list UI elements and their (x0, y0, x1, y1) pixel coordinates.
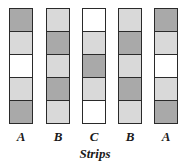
strip-cell (47, 78, 69, 101)
strip-cell (83, 78, 105, 101)
strip-cell (83, 9, 105, 32)
strip-cell (155, 9, 177, 32)
strip-cell (47, 101, 69, 123)
strip-label: B (118, 129, 142, 145)
strip-cell (47, 32, 69, 55)
strip-cell (10, 78, 32, 101)
strip-3 (82, 8, 106, 124)
strip-cell (47, 9, 69, 32)
strip-5 (154, 8, 178, 124)
strip-cell (119, 55, 141, 78)
strip-label: B (46, 129, 70, 145)
strip-cell (47, 55, 69, 78)
strip-cell (155, 55, 177, 78)
strip-cell (119, 32, 141, 55)
strip-cell (10, 101, 32, 123)
strip-label: A (154, 129, 178, 145)
strip-cell (119, 101, 141, 123)
strip-label: C (82, 129, 106, 145)
strip-cell (83, 101, 105, 123)
strip-cell (83, 32, 105, 55)
strip-cell (83, 55, 105, 78)
strip-1 (9, 8, 33, 124)
strip-cell (119, 9, 141, 32)
axis-title: Strips (0, 146, 190, 162)
strip-cell (10, 9, 32, 32)
strip-cell (155, 101, 177, 123)
strip-cell (10, 32, 32, 55)
strip-4 (118, 8, 142, 124)
strip-2 (46, 8, 70, 124)
strip-cell (10, 55, 32, 78)
strip-cell (119, 78, 141, 101)
strip-label: A (9, 129, 33, 145)
strip-cell (155, 78, 177, 101)
strip-cell (155, 32, 177, 55)
